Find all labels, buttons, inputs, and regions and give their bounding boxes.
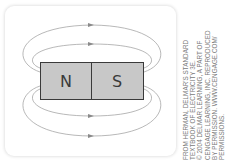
arrow-right-icon	[88, 42, 94, 46]
credit-line: TEXTBOOK OF ELECTRICITY 3E.	[189, 5, 196, 160]
arrow-right-icon	[88, 134, 94, 138]
south-pole-label: S	[112, 72, 122, 91]
copyright-credit: FROM HERMAN, DELMAR'S STANDARD TEXTBOOK …	[182, 5, 225, 160]
credit-line: FROM HERMAN, DELMAR'S STANDARD	[182, 5, 189, 160]
arrow-right-icon	[88, 23, 94, 27]
credit-line: CENGAGE LEARNING, INC. REPRODUCED	[204, 5, 211, 160]
north-pole-label: N	[60, 72, 72, 91]
credit-line: PERMISSIONS.	[218, 5, 225, 160]
credit-line: BY PERMISSION. WWW.CENGAGE.COM/	[211, 5, 218, 160]
arrow-right-icon	[88, 114, 94, 118]
credit-line: © 2004 DELMAR LEARNING, A PART OF	[196, 5, 203, 160]
